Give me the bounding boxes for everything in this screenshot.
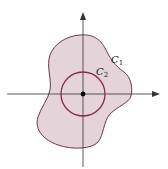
region-c1 bbox=[37, 35, 132, 148]
label-c2-sub: 2 bbox=[104, 71, 108, 79]
diagram-canvas: C1 C2 bbox=[0, 0, 168, 169]
y-axis-arrow-icon bbox=[80, 12, 86, 20]
origin-dot bbox=[81, 92, 86, 97]
label-c1-sub: 1 bbox=[119, 59, 123, 67]
x-axis-arrow-icon bbox=[152, 91, 160, 97]
